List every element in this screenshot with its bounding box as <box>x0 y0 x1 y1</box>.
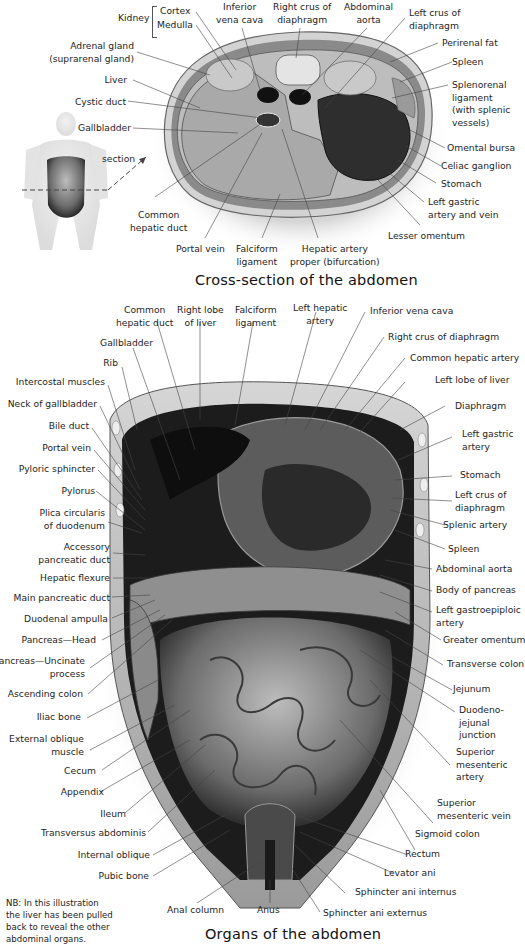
label-cecum: Cecum <box>64 765 96 778</box>
label-abdominal-aorta-2: Abdominal aorta <box>436 563 512 576</box>
label-falciform-ligament-2: Falciform ligament <box>235 304 277 329</box>
label-left-crus-of-diaphragm-2: Left crus of diaphragm <box>455 489 506 514</box>
label-left-lobe-of-liver: Left lobe of liver <box>435 374 510 387</box>
label-abdominal-aorta: Abdominal aorta <box>344 1 393 26</box>
label-left-hepatic-artery: Left hepatic artery <box>293 302 347 327</box>
label-internal-oblique: Internal oblique <box>78 849 150 862</box>
label-common-hepatic-duct-2: Common hepatic duct <box>116 304 173 329</box>
label-splenorenal-ligament: Splenorenal ligament (with splenic vesse… <box>452 79 510 129</box>
label-anal-column: Anal column <box>167 904 224 917</box>
label-celiac-ganglion: Celiac ganglion <box>441 160 511 173</box>
organs-illustration <box>95 380 445 908</box>
label-diaphragm: Diaphragm <box>455 400 506 413</box>
label-duodenal-ampulla: Duodenal ampulla <box>24 613 108 626</box>
label-anus: Anus <box>257 904 280 917</box>
label-right-crus-of-diaphragm: Right crus of diaphragm <box>273 1 331 26</box>
label-jejunum: Jejunum <box>453 683 490 696</box>
label-rib: Rib <box>103 357 118 370</box>
label-kidney: Kidney <box>118 12 149 25</box>
organs-title: Organs of the abdomen <box>205 926 381 942</box>
illustration-note: NB: In this illustration the liver has b… <box>6 897 113 944</box>
label-right-crus-of-diaphragm-2: Right crus of diaphragm <box>388 331 499 344</box>
label-hepatic-flexure: Hepatic flexure <box>40 572 110 585</box>
label-superior-mesenteric-artery: Superior mesenteric artery <box>456 746 508 784</box>
label-cortex: Cortex <box>160 5 190 18</box>
label-plica-circularis: Plica circularis of duodenum <box>39 507 105 532</box>
label-rectum: Rectum <box>405 848 440 861</box>
label-omental-bursa: Omental bursa <box>447 142 515 155</box>
label-sphincter-ani-internus: Sphincter ani internus <box>355 886 456 899</box>
label-ascending-colon: Ascending colon <box>8 688 83 701</box>
label-left-gastric-artery-and-vein: Left gastric artery and vein <box>428 196 498 221</box>
label-gallbladder: Gallbladder <box>78 122 131 135</box>
label-left-gastroepiploic-artery: Left gastroepiploic artery <box>436 604 521 629</box>
label-body-of-pancreas: Body of pancreas <box>436 584 516 597</box>
label-neck-of-gallbladder: Neck of gallbladder <box>8 398 97 411</box>
label-pancreas-head: Pancreas—Head <box>22 634 97 647</box>
label-spleen-2: Spleen <box>448 543 479 556</box>
label-cystic-duct: Cystic duct <box>75 96 126 109</box>
label-levator-ani: Levator ani <box>384 867 436 880</box>
label-stomach: Stomach <box>441 178 482 191</box>
label-portal-vein: Portal vein <box>176 243 225 256</box>
label-left-crus-of-diaphragm: Left crus of diaphragm <box>409 7 460 32</box>
label-ileum: Ileum <box>100 808 126 821</box>
label-intercostal-muscles: Intercostal muscles <box>16 376 105 389</box>
label-greater-omentum: Greater omentum <box>443 634 525 647</box>
label-adrenal-gland: Adrenal gland (suprarenal gland) <box>49 40 134 65</box>
label-perirenal-fat: Perirenal fat <box>442 37 498 50</box>
label-liver: Liver <box>104 74 127 87</box>
label-main-pancreatic-duct: Main pancreatic duct <box>14 592 110 605</box>
label-gallbladder-2: Gallbladder <box>100 337 153 350</box>
label-inferior-vena-cava-2: Inferior vena cava <box>370 305 453 318</box>
label-duodenojejunal-junction: Duodeno- jejunal junction <box>459 704 504 742</box>
label-pylorus: Pylorus <box>61 485 95 498</box>
label-right-lobe-of-liver: Right lobe of liver <box>177 304 224 329</box>
label-falciform-ligament: Falciform ligament <box>236 243 278 268</box>
label-portal-vein-2: Portal vein <box>42 442 91 455</box>
label-external-oblique: External oblique muscle <box>9 733 84 758</box>
cross-section-title: Cross-section of the abdomen <box>195 272 418 288</box>
label-accessory-pancreatic-duct: Accessory pancreatic duct <box>38 541 110 566</box>
label-splenic-artery: Splenic artery <box>443 519 507 532</box>
label-superior-mesenteric-vein: Superior mesenteric vein <box>437 797 511 822</box>
label-section: section <box>102 153 135 166</box>
label-bile-duct: Bile duct <box>49 420 89 433</box>
label-sigmoid-colon: Sigmoid colon <box>415 828 480 841</box>
label-stomach-2: Stomach <box>460 469 501 482</box>
label-appendix: Appendix <box>61 786 104 799</box>
label-left-gastric-artery: Left gastric artery <box>462 428 513 453</box>
label-medulla: Medulla <box>157 19 193 32</box>
label-lesser-omentum: Lesser omentum <box>388 230 465 243</box>
label-hepatic-artery-proper: Hepatic artery proper (bifurcation) <box>290 243 380 268</box>
label-common-hepatic-artery: Common hepatic artery <box>410 352 519 365</box>
label-pancreas-uncinate: Pancreas—Uncinate process <box>0 655 85 680</box>
label-pubic-bone: Pubic bone <box>99 870 150 883</box>
label-transverse-colon: Transverse colon <box>447 658 524 671</box>
label-inferior-vena-cava: Inferior vena cava <box>216 1 263 26</box>
label-transversus-abdominis: Transversus abdominis <box>41 827 146 840</box>
label-common-hepatic-duct: Common hepatic duct <box>130 209 187 234</box>
label-spleen: Spleen <box>452 56 483 69</box>
cross-section-illustration <box>150 32 450 255</box>
label-pyloric-sphincter: Pyloric sphincter <box>19 463 95 476</box>
label-sphincter-ani-externus: Sphincter ani externus <box>323 907 427 920</box>
label-iliac-bone: Iliac bone <box>37 711 81 724</box>
